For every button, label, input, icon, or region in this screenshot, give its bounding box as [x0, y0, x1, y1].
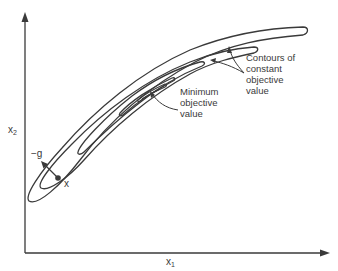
contours-label-line-3: objective — [246, 74, 295, 85]
gradient-label: −g — [31, 148, 42, 159]
minimum-label: Minimum objective value — [180, 86, 219, 119]
x-axis-label-subscript: 1 — [171, 261, 175, 268]
current-point-marker-icon — [55, 175, 61, 181]
x-axis-arrowhead-icon — [320, 250, 330, 257]
contour-2 — [40, 47, 258, 189]
x-axis-label: x1 — [166, 256, 175, 270]
point-label: x — [64, 178, 69, 189]
contours-arrowhead-2-icon — [210, 58, 216, 63]
y-axis-label-subscript: 2 — [13, 129, 17, 136]
contours-label-line-1: Contours of — [246, 52, 295, 63]
minimum-label-line-2: objective — [180, 97, 219, 108]
contours-label-line-2: constant — [246, 63, 295, 74]
contour-diagram — [0, 0, 338, 271]
minimum-label-line-1: Minimum — [180, 86, 219, 97]
contours-label-line-4: value — [246, 85, 295, 96]
y-axis-arrowhead-icon — [22, 12, 29, 22]
minimum-leader-line — [152, 94, 178, 110]
contours-label: Contours of constant objective value — [246, 52, 295, 96]
y-axis-label: x2 — [8, 124, 17, 138]
minimum-label-line-3: value — [180, 108, 219, 119]
